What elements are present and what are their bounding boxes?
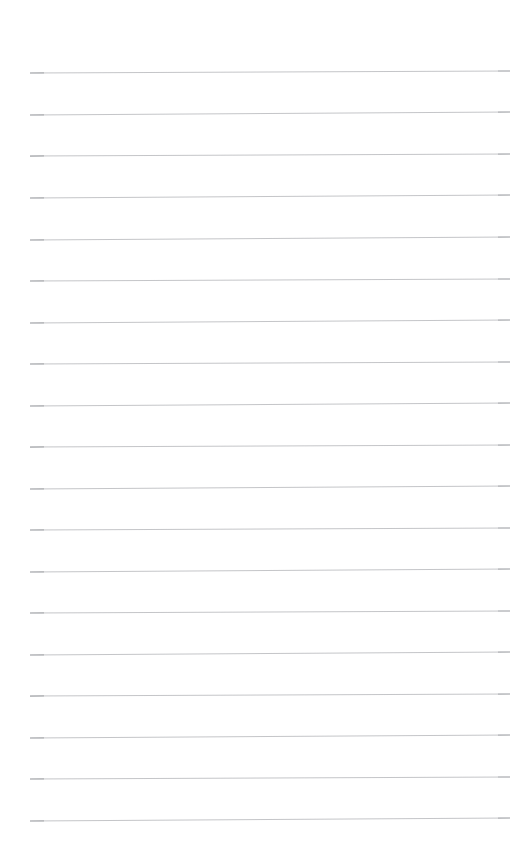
- rule-stroke: [30, 569, 510, 572]
- ruled-line[interactable]: [30, 484, 510, 491]
- ruled-line[interactable]: [30, 360, 510, 366]
- rule-stroke: [30, 777, 510, 779]
- ruled-line[interactable]: [30, 443, 510, 449]
- ruled-line[interactable]: [30, 733, 510, 740]
- ruled-line[interactable]: [30, 318, 510, 325]
- rule-stroke: [30, 445, 510, 447]
- ruled-line[interactable]: [30, 277, 510, 283]
- rule-stroke: [30, 279, 510, 281]
- rule-stroke: [30, 818, 510, 821]
- ruled-line[interactable]: [30, 816, 510, 823]
- rule-stroke: [30, 320, 510, 323]
- ruled-line[interactable]: [30, 775, 510, 781]
- ruled-line[interactable]: [30, 110, 510, 117]
- rule-stroke: [30, 154, 510, 156]
- rule-stroke: [30, 694, 510, 696]
- rule-stroke: [30, 195, 510, 198]
- ruled-line[interactable]: [30, 567, 510, 574]
- ruled-line[interactable]: [30, 526, 510, 532]
- ruled-line[interactable]: [30, 609, 510, 615]
- ruled-line[interactable]: [30, 69, 510, 75]
- rule-stroke: [30, 362, 510, 364]
- ruled-line-area[interactable]: [0, 0, 516, 852]
- rule-stroke: [30, 528, 510, 530]
- ruled-line[interactable]: [30, 193, 510, 200]
- rule-stroke: [30, 652, 510, 655]
- rule-stroke: [30, 237, 510, 240]
- ruled-line[interactable]: [30, 692, 510, 698]
- rule-stroke: [30, 735, 510, 738]
- ruled-line[interactable]: [30, 401, 510, 408]
- rule-stroke: [30, 611, 510, 613]
- rule-stroke: [30, 486, 510, 489]
- rule-stroke: [30, 403, 510, 406]
- rule-stroke: [30, 112, 510, 115]
- ruled-page: [0, 0, 516, 852]
- rule-stroke: [30, 71, 510, 73]
- ruled-line[interactable]: [30, 235, 510, 242]
- ruled-line[interactable]: [30, 152, 510, 158]
- ruled-line[interactable]: [30, 650, 510, 657]
